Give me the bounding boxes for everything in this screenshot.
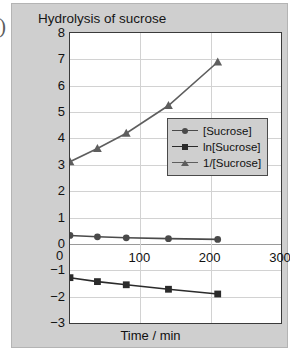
plot-area	[69, 32, 282, 324]
y-axis-tick-labels: 876543210−1−2−3	[20, 32, 65, 324]
data-point-square	[70, 274, 73, 281]
legend-entry[interactable]: 1/[Sucrose]	[172, 155, 261, 171]
data-point-circle	[70, 232, 73, 239]
legend-entry[interactable]: ln[Sucrose]	[172, 139, 261, 155]
chart-legend: [Sucrose]ln[Sucrose]1/[Sucrose]	[167, 118, 268, 176]
data-point-square	[214, 291, 221, 298]
x-axis-tick-label: 200	[199, 250, 221, 265]
y-axis-tick-label: 8	[25, 25, 65, 40]
x-axis-tick-labels: 100200300	[69, 250, 282, 270]
data-point-circle	[123, 234, 130, 241]
data-point-square	[94, 278, 101, 285]
series-line	[70, 278, 218, 294]
data-point-square	[165, 286, 172, 293]
y-axis-tick-label: 4	[25, 130, 65, 145]
triangle-marker-icon	[181, 160, 189, 166]
legend-sample	[172, 156, 198, 170]
data-point-circle	[165, 235, 172, 242]
legend-sample	[172, 140, 198, 154]
legend-entry-label: 1/[Sucrose]	[203, 157, 261, 169]
legend-entry-label: [Sucrose]	[203, 125, 252, 137]
y-axis-tick-label: 5	[25, 104, 65, 119]
data-point-square	[123, 281, 130, 288]
x-axis-tick-label: 100	[128, 250, 150, 265]
series-line	[70, 236, 218, 240]
y-axis-tick-label: 2	[25, 183, 65, 198]
y-axis-tick-label: 7	[25, 51, 65, 66]
data-point-triangle	[122, 129, 131, 137]
data-point-triangle	[93, 144, 102, 152]
y-axis-tick-label: 6	[25, 77, 65, 92]
figure-root: ) Hydrolysis of sucrose 876543210−1−2−3 …	[0, 0, 290, 351]
legend-sample	[172, 124, 198, 138]
legend-entry[interactable]: [Sucrose]	[172, 123, 261, 139]
y-axis-tick-label: −1	[25, 262, 65, 277]
data-point-circle	[214, 236, 221, 243]
data-point-circle	[94, 233, 101, 240]
legend-entry-label: ln[Sucrose]	[203, 141, 261, 153]
x-axis-origin-label: 0	[56, 248, 63, 263]
y-axis-tick-label: −2	[25, 288, 65, 303]
y-axis-tick-label: 1	[25, 209, 65, 224]
x-axis-tick-label: 300	[269, 250, 290, 265]
x-axis-title: Time / min	[12, 328, 289, 343]
series-layer	[70, 33, 281, 323]
chart-panel: Hydrolysis of sucrose 876543210−1−2−3 10…	[11, 3, 288, 348]
data-point-triangle	[213, 58, 222, 66]
y-axis-tick-label: 3	[25, 156, 65, 171]
edge-bracket-glyph: )	[0, 14, 11, 38]
square-marker-icon	[182, 144, 188, 150]
circle-marker-icon	[182, 128, 188, 134]
